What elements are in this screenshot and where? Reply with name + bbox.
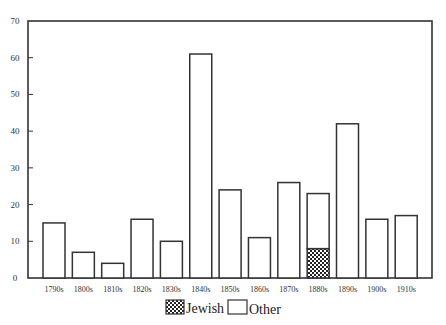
bar-other	[395, 216, 417, 278]
legend-swatch-other	[228, 300, 247, 314]
bar-other	[248, 238, 270, 278]
bar-jewish	[307, 249, 329, 278]
legend-label-jewish: Jewish	[186, 301, 224, 316]
bar-other	[366, 219, 388, 278]
bar-other	[131, 219, 153, 278]
bars	[43, 54, 417, 278]
y-tick-label: 40	[11, 126, 21, 136]
bar-group-1860s	[248, 238, 270, 278]
bar-chart: 010203040506070 1790s1800s1810s1820s1830…	[0, 0, 446, 325]
x-tick-label: 1910s	[397, 285, 416, 294]
x-tick-label: 1820s	[132, 285, 151, 294]
bar-other	[219, 190, 241, 278]
bar-group-1830s	[160, 241, 182, 278]
bar-other	[72, 252, 94, 278]
x-tick-label: 1890s	[338, 285, 357, 294]
legend-label-other: Other	[249, 302, 281, 317]
x-tick-label: 1830s	[162, 285, 181, 294]
x-axis: 1790s1800s1810s1820s1830s1840s1850s1860s…	[44, 285, 415, 294]
x-tick-label: 1840s	[191, 285, 210, 294]
bar-group-1810s	[102, 263, 124, 278]
bar-group-1910s	[395, 216, 417, 278]
x-tick-label: 1800s	[74, 285, 93, 294]
bar-other	[337, 124, 359, 278]
bar-group-1900s	[366, 219, 388, 278]
y-tick-label: 30	[11, 163, 21, 173]
bar-other	[102, 263, 124, 278]
bar-group-1870s	[278, 183, 300, 278]
bar-other	[160, 241, 182, 278]
x-tick-label: 1860s	[250, 285, 269, 294]
y-axis: 010203040506070	[11, 16, 34, 283]
bar-other	[43, 223, 65, 278]
bar-group-1790s	[43, 223, 65, 278]
bar-group-1880s	[307, 194, 329, 278]
bar-other	[278, 183, 300, 278]
bar-other	[307, 194, 329, 249]
x-tick-label: 1870s	[279, 285, 298, 294]
x-tick-label: 1850s	[221, 285, 240, 294]
y-tick-label: 20	[11, 200, 21, 210]
x-tick-label: 1880s	[309, 285, 328, 294]
y-tick-label: 10	[11, 236, 21, 246]
x-tick-label: 1900s	[367, 285, 386, 294]
bar-other	[190, 54, 212, 278]
bar-group-1820s	[131, 219, 153, 278]
legend: Jewish Other	[166, 300, 281, 317]
y-tick-label: 0	[13, 273, 18, 283]
bar-group-1800s	[72, 252, 94, 278]
y-tick-label: 70	[11, 16, 21, 26]
y-tick-label: 60	[11, 53, 21, 63]
bar-group-1850s	[219, 190, 241, 278]
y-tick-label: 50	[11, 89, 21, 99]
bar-group-1890s	[337, 124, 359, 278]
legend-swatch-jewish	[166, 300, 184, 314]
x-tick-label: 1810s	[103, 285, 122, 294]
bar-group-1840s	[190, 54, 212, 278]
x-tick-label: 1790s	[44, 285, 63, 294]
